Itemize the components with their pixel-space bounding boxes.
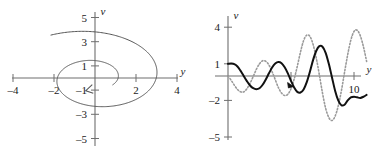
time-x-tick-label: 10 <box>349 83 361 95</box>
time-series-svg: 10–5–214 y v <box>191 0 383 155</box>
phase-x-tick-label: 4 <box>174 84 180 96</box>
time-y-axis-label: v <box>234 9 239 21</box>
phase-y-tick-label: 3 <box>82 36 88 48</box>
time-tick-labels: 10–5–214 <box>208 21 360 143</box>
phase-y-tick-label: –5 <box>75 133 88 145</box>
phase-plane-panel: –4–224–5–3–1135 y v <box>0 0 192 155</box>
phase-spiral-curve <box>51 31 157 106</box>
time-y-tick-label: –5 <box>208 131 221 143</box>
time-y-tick-label: 4 <box>215 21 221 33</box>
time-axes <box>215 16 361 140</box>
time-series-dotted-curve <box>228 30 367 121</box>
phase-y-tick-label: –3 <box>75 108 88 120</box>
time-ticks <box>224 27 354 137</box>
phase-y-tick-label: 5 <box>82 12 88 24</box>
time-y-tick-label: –2 <box>208 94 220 106</box>
time-y-tick-label: 1 <box>215 58 221 70</box>
phase-x-axis-label: y <box>180 65 186 77</box>
phase-y-tick-label: –1 <box>75 84 87 96</box>
time-x-axis-label: y <box>366 63 372 75</box>
phase-y-axis-label: v <box>101 5 106 17</box>
time-series-panel: 10–5–214 y v <box>191 0 383 155</box>
phase-plane-svg: –4–224–5–3–1135 y v <box>0 0 192 155</box>
phase-x-tick-label: –4 <box>7 84 20 96</box>
phase-x-tick-label: 2 <box>133 84 139 96</box>
phase-y-tick-label: 1 <box>82 60 88 72</box>
figure-root: –4–224–5–3–1135 y v 10–5–214 y v <box>0 0 383 155</box>
